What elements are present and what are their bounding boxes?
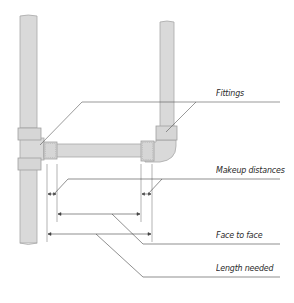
fittings-label: Fittings [216,88,244,98]
length-needed-label: Length needed [216,263,273,273]
makeup-distances-label: Makeup distances [216,165,285,175]
extension-lines [47,164,152,242]
left-vertical-pipe [18,15,44,245]
right-vertical-pipe [141,21,177,162]
face-to-face-label: Face to face [216,230,262,240]
horizontal-pipe [44,142,144,159]
pipe-diagram: Fittings Makeup distances Face to face L… [0,0,294,303]
diagram-canvas [0,0,294,303]
makeup-distance-markers [48,179,280,195]
